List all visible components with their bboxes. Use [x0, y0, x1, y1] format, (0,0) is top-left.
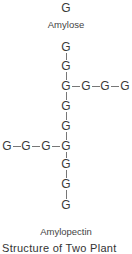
bond-line [32, 146, 40, 147]
glucose-unit: G [60, 178, 72, 190]
bond-line [52, 146, 60, 147]
glucose-unit: G [60, 120, 72, 132]
glucose-unit: G [1, 140, 13, 152]
bond-line [111, 86, 119, 87]
glucose-unit: G [60, 60, 72, 72]
figure-caption: Structure of Two Plant [2, 242, 117, 254]
amylopectin-label: Amylopectin [0, 226, 132, 237]
glucose-unit-branch-point: G [60, 80, 72, 92]
glucose-unit: G [80, 80, 92, 92]
glucose-unit: G [40, 140, 52, 152]
glucose-unit-branch-point: G [60, 140, 72, 152]
glucose-unit: G [60, 41, 72, 53]
glucose-unit: G [99, 80, 111, 92]
bond-line [72, 86, 80, 87]
glucose-unit: G [60, 199, 72, 211]
glucose-unit: G [60, 100, 72, 112]
glucose-unit: G [20, 140, 32, 152]
glucose-unit: G [60, 158, 72, 170]
amylose-glucose-unit: G [60, 2, 72, 14]
glucose-unit: G [119, 80, 131, 92]
amylose-label: Amylose [0, 19, 132, 30]
